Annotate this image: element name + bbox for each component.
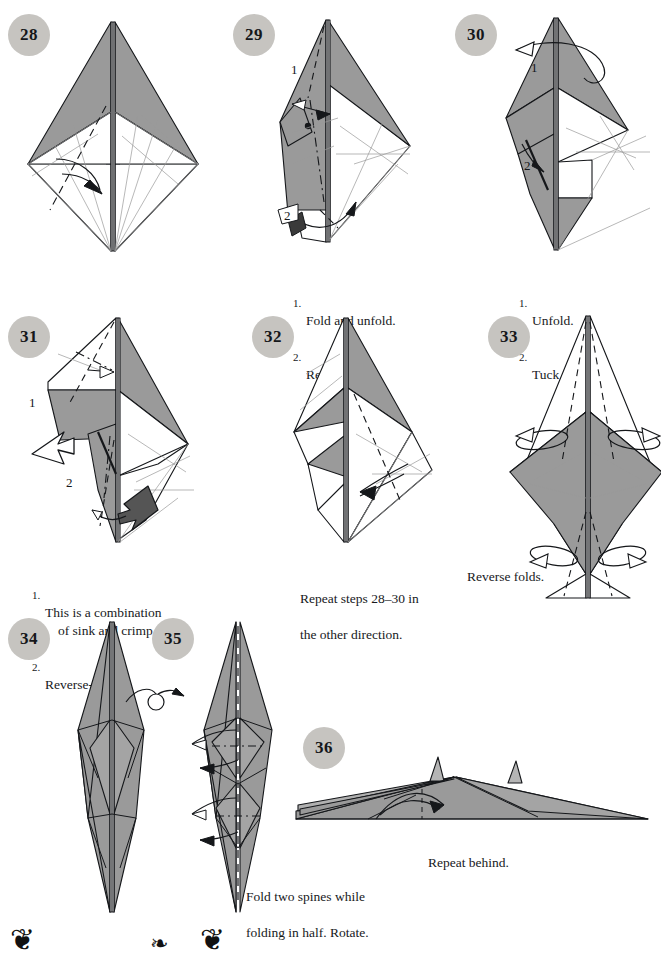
figure-step-32 [280, 314, 470, 554]
step-number-30: 30 [467, 25, 485, 45]
caption-step-33: Reverse folds. [467, 550, 544, 586]
marker-29-2: 2 [284, 208, 291, 224]
marker-29-1: 1 [291, 62, 298, 78]
caption-35-line-2: folding in half. Rotate. [246, 925, 369, 940]
ornament-glyph-right: ❦ [200, 922, 225, 953]
ornament-middle: ❧ [150, 933, 168, 953]
caption-step-36: Repeat behind. [428, 836, 509, 872]
ornament-glyph-middle: ❧ [150, 931, 168, 953]
figure-step-36 [288, 745, 658, 825]
ornament-right: ❦ [200, 925, 225, 953]
caption-36-line-1: Repeat behind. [428, 855, 509, 870]
step-number-34: 34 [20, 629, 38, 649]
marker-31-2: 2 [66, 475, 73, 491]
figure-step-34 [40, 618, 160, 918]
origami-diagram-page: 28 [0, 0, 661, 953]
ornament-left: ❦ [10, 925, 35, 953]
caption-step-35: Fold two spines while folding in half. R… [246, 870, 369, 942]
caption-29-num-1: 1. [293, 297, 301, 309]
caption-31-num-2: 2. [32, 661, 40, 673]
caption-32-line-2: the other direction. [300, 627, 402, 642]
caption-32-line-1: Repeat steps 28–30 in [300, 591, 419, 606]
caption-31-num-1: 1. [32, 589, 40, 601]
marker-30-2: 2 [524, 158, 531, 174]
figure-step-31 [18, 314, 228, 554]
marker-30-1: 1 [531, 60, 538, 76]
marker-31-1: 1 [29, 395, 36, 411]
ornament-glyph-left: ❦ [10, 922, 35, 953]
figure-step-30 [500, 12, 660, 257]
step-badge-30: 30 [455, 14, 497, 56]
figure-step-28 [18, 14, 238, 254]
caption-35-line-1: Fold two spines while [246, 889, 365, 904]
caption-step-32: Repeat steps 28–30 in the other directio… [300, 554, 419, 662]
caption-30-num-1: 1. [519, 297, 527, 309]
caption-33-line-1: Reverse folds. [467, 569, 544, 584]
